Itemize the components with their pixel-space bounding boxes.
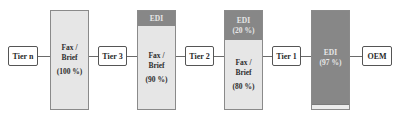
channel-column-tier2-tier1: EDI (20 %) Fax / Brief (80 %) <box>224 10 263 110</box>
segment-percent: (90 %) <box>146 75 168 85</box>
fax-segment-remainder <box>312 104 349 109</box>
node-tier-n: Tier n <box>8 46 38 66</box>
segment-label: Brief <box>235 68 251 78</box>
connector-col4-oem <box>349 56 363 57</box>
segment-percent: (100 %) <box>57 67 83 77</box>
connector-tiern-col1 <box>37 56 51 57</box>
edi-segment: EDI (20 %) <box>225 11 262 40</box>
node-label: OEM <box>367 52 386 61</box>
node-label: Tier 1 <box>276 52 296 61</box>
node-label: Tier 2 <box>189 52 209 61</box>
segment-label: Fax / <box>61 43 77 53</box>
fax-segment: Fax / Brief (90 %) <box>138 26 175 109</box>
fax-segment: Fax / Brief (100 %) <box>51 11 88 109</box>
segment-label: Brief <box>61 53 77 63</box>
channel-column-tiern-tier3: Fax / Brief (100 %) <box>50 10 89 110</box>
edi-segment: EDI (97 %) <box>312 11 349 104</box>
segment-percent: (20 %) <box>233 26 255 36</box>
segment-label: EDI <box>237 16 250 26</box>
channel-column-tier3-tier2: EDI Fax / Brief (90 %) <box>137 10 176 110</box>
segment-label: Fax / <box>148 51 164 61</box>
segment-label: Fax / <box>235 58 251 68</box>
segment-percent: (80 %) <box>233 82 255 92</box>
segment-percent: (97 %) <box>320 58 342 68</box>
node-tier-1: Tier 1 <box>272 46 301 66</box>
node-oem: OEM <box>362 46 392 66</box>
node-tier-3: Tier 3 <box>98 46 127 66</box>
fax-segment: Fax / Brief (80 %) <box>225 40 262 109</box>
node-tier-2: Tier 2 <box>185 46 214 66</box>
segment-label: EDI <box>324 48 337 58</box>
node-label: Tier 3 <box>102 52 122 61</box>
node-label: Tier n <box>13 52 34 61</box>
segment-label: Brief <box>148 61 164 71</box>
edi-segment: EDI <box>138 11 175 26</box>
channel-column-tier1-oem: EDI (97 %) <box>311 10 350 110</box>
segment-label: EDI <box>150 14 163 24</box>
